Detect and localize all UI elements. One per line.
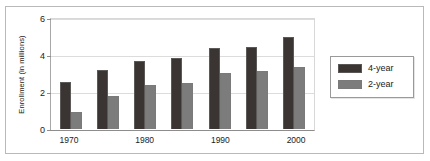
y-tick-label: 0 [40, 126, 45, 135]
bar-2-year-1970 [71, 112, 82, 129]
y-tick-label: 6 [40, 15, 45, 24]
bar-2-year-1995 [257, 71, 268, 129]
bar-4-year-1985 [171, 58, 182, 130]
bar-4-year-2000 [283, 37, 294, 129]
bar-2-year-1985 [182, 83, 193, 129]
bar-group [209, 19, 231, 129]
plot-area: 0246 [50, 18, 315, 131]
x-tick-label-1990: 1990 [201, 134, 239, 146]
legend-item-4-year: 4-year [338, 62, 407, 75]
y-tick-mark [47, 130, 51, 131]
y-axis-title: Enrollment (in millions) [16, 18, 28, 131]
bar-2-year-1975 [108, 96, 119, 129]
legend-label-2-year: 2-year [368, 80, 394, 89]
chart-figure: Enrollment (in millions) 0246 1970198019… [0, 0, 430, 161]
bar-4-year-1995 [246, 47, 257, 130]
y-tick-label: 4 [40, 51, 45, 60]
bar-4-year-1975 [97, 70, 108, 129]
legend-label-4-year: 4-year [368, 64, 394, 73]
x-tick-label-1980: 1980 [126, 134, 164, 146]
y-tick-mark [47, 56, 51, 57]
bar-4-year-1970 [60, 82, 71, 129]
bar-group [283, 19, 305, 129]
bar-group [246, 19, 268, 129]
y-tick-mark [47, 19, 51, 20]
legend-item-2-year: 2-year [338, 78, 407, 91]
bar-group [134, 19, 156, 129]
bars-layer [52, 19, 313, 129]
bar-group [97, 19, 119, 129]
y-tick-mark [47, 93, 51, 94]
bar-2-year-1990 [220, 73, 231, 129]
legend-swatch-2-year [338, 80, 362, 89]
chart-legend: 4-year 2-year [330, 56, 414, 98]
x-tick-label-1970: 1970 [50, 134, 88, 146]
bar-2-year-2000 [294, 67, 305, 129]
bar-group [171, 19, 193, 129]
x-tick-label-2000: 2000 [277, 134, 315, 146]
bar-4-year-1980 [134, 61, 145, 129]
bar-group [60, 19, 82, 129]
bar-2-year-1980 [145, 85, 156, 129]
legend-swatch-4-year [338, 64, 362, 73]
bar-4-year-1990 [209, 48, 220, 129]
y-tick-label: 2 [40, 88, 45, 97]
x-axis-labels: 1970198019902000 [50, 134, 315, 148]
